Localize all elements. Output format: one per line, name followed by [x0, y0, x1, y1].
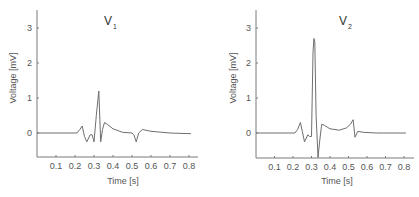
y-tick-label: 2: [27, 58, 32, 68]
x-tick-label: 0.4: [324, 162, 337, 172]
chart-v1: 0123 0.10.20.30.40.50.60.70.8 V 1 Voltag…: [8, 10, 198, 186]
x-tick-label: 0.7: [164, 161, 177, 171]
chart-v2: 0123 0.10.20.30.40.50.60.70.8 V 2 Voltag…: [228, 10, 414, 186]
x-tick-label: 0.7: [379, 162, 392, 172]
x-tick-label: 0.5: [126, 161, 139, 171]
y-tick-label: 1: [246, 93, 251, 103]
chart-title-subscript: 2: [348, 23, 352, 30]
x-tick-label: 0.3: [305, 162, 318, 172]
chart-title: V: [339, 14, 347, 28]
x-tick-label: 0.1: [50, 161, 63, 171]
x-tick-label: 0.1: [268, 162, 281, 172]
x-tick-label: 0.3: [88, 161, 101, 171]
x-tick-label: 0.8: [183, 161, 196, 171]
y-tick-label: 0: [27, 128, 32, 138]
chart-title: V: [104, 14, 112, 28]
chart-title-subscript: 1: [113, 23, 117, 30]
x-axis-label: Time [s]: [321, 176, 353, 186]
figure: 0123 0.10.20.30.40.50.60.70.8 V 1 Voltag…: [0, 0, 419, 197]
ecg-trace-v1: [37, 91, 191, 142]
x-tick-label: 0.5: [342, 162, 355, 172]
x-tick-label: 0.6: [361, 162, 374, 172]
y-tick-label: 3: [246, 23, 251, 33]
axes-frame: [37, 10, 198, 157]
y-axis-label: Voltage [mV]: [228, 52, 238, 103]
axes-frame: [256, 10, 414, 158]
x-tick-label: 0.2: [69, 161, 82, 171]
y-tick-label: 2: [246, 58, 251, 68]
x-axis-label: Time [s]: [107, 176, 139, 186]
ecg-trace-v2: [256, 39, 406, 158]
y-tick-label: 0: [246, 128, 251, 138]
x-tick-label: 0.2: [287, 162, 300, 172]
y-axis-label: Voltage [mV]: [8, 52, 18, 103]
x-tick-label: 0.6: [145, 161, 158, 171]
x-tick-label: 0.4: [107, 161, 120, 171]
x-tick-label: 0.8: [398, 162, 411, 172]
y-tick-label: 3: [27, 23, 32, 33]
y-tick-label: 1: [27, 93, 32, 103]
